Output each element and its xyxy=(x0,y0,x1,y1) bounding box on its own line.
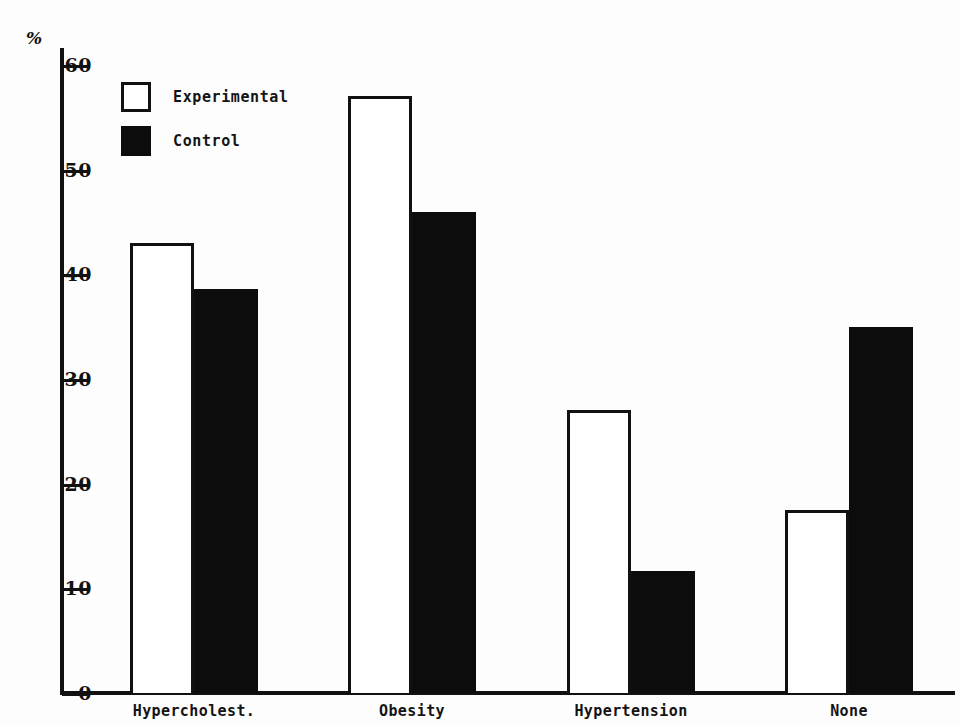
y-axis-tick-mark xyxy=(62,484,90,487)
y-axis-tick-mark xyxy=(62,588,90,591)
y-axis-tick-mark xyxy=(62,693,90,696)
bar-experimental-hypertension xyxy=(567,410,631,693)
bar-experimental-none xyxy=(785,510,849,693)
legend-entry-control: Control xyxy=(121,126,289,156)
y-axis-tick-mark xyxy=(62,379,90,382)
bar-control-hypercholest xyxy=(194,289,258,693)
chart-legend: Experimental Control xyxy=(121,82,289,170)
y-axis-tick-mark xyxy=(62,274,90,277)
bar-control-hypertension xyxy=(631,571,695,693)
bar-experimental-obesity xyxy=(348,96,412,693)
y-axis-tick-mark xyxy=(62,170,90,173)
legend-label-control: Control xyxy=(173,132,240,150)
bar-chart: % 0102030405060 Hypercholest.ObesityHype… xyxy=(0,0,961,726)
x-axis-label-none: None xyxy=(830,702,868,720)
bar-control-none xyxy=(849,327,913,693)
legend-entry-experimental: Experimental xyxy=(121,82,289,112)
x-axis-label-obesity: Obesity xyxy=(379,702,445,720)
legend-swatch-experimental-icon xyxy=(121,82,151,112)
y-axis-tick-mark xyxy=(62,65,90,68)
legend-swatch-control-icon xyxy=(121,126,151,156)
y-axis-unit-label: % xyxy=(26,28,42,48)
x-axis-label-hypertension: Hypertension xyxy=(574,702,687,720)
bar-experimental-hypercholest xyxy=(130,243,194,693)
legend-label-experimental: Experimental xyxy=(173,88,289,106)
x-axis-label-hypercholest: Hypercholest. xyxy=(133,702,256,720)
bar-control-obesity xyxy=(412,212,476,693)
